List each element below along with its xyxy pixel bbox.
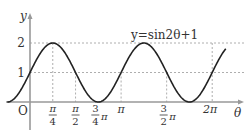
x-tick-label: 2π xyxy=(202,103,218,116)
origin-label: O xyxy=(18,104,28,118)
y-tick-label: 1 xyxy=(17,66,25,80)
sine-chart: 12π4π234ππ32π2π y θ O y=sin2θ+1 xyxy=(0,0,248,133)
x-tick-denominator: 2 xyxy=(72,116,78,127)
sine-curve xyxy=(7,43,226,102)
y-axis-label: y xyxy=(19,9,27,23)
equation-label: y=sin2θ+1 xyxy=(130,28,198,42)
x-tick-suffix: π xyxy=(100,111,108,122)
y-axis-arrow-icon xyxy=(28,13,33,19)
axis-labels: 12π4π234ππ32π2π xyxy=(17,36,218,127)
x-tick-numerator: π xyxy=(71,103,79,114)
x-tick-denominator: 2 xyxy=(160,116,166,127)
y-tick-label: 2 xyxy=(17,36,25,50)
x-tick-numerator: π xyxy=(48,103,56,114)
x-tick-denominator: 4 xyxy=(92,116,98,127)
x-tick-label: π xyxy=(116,103,125,116)
x-axis-arrow-icon xyxy=(238,100,244,105)
x-tick-numerator: 3 xyxy=(92,103,98,114)
x-tick-denominator: 4 xyxy=(50,116,56,127)
x-axis-label: θ xyxy=(234,106,242,120)
x-tick-numerator: 3 xyxy=(160,103,166,114)
guide-lines xyxy=(30,43,246,102)
x-tick-suffix: π xyxy=(168,111,176,122)
